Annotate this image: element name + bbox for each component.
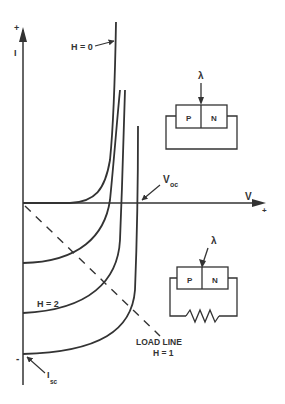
load-line <box>25 206 160 336</box>
h2-label: H = 2 <box>37 299 59 309</box>
y-axis-label: I <box>14 48 17 58</box>
circuit-short: λ P N <box>166 70 237 149</box>
svg-text:V: V <box>163 174 170 185</box>
svg-text:H = 1: H = 1 <box>153 348 174 358</box>
y-axis-plus: + <box>14 23 19 33</box>
load-line-label: LOAD LINE H = 1 <box>136 337 182 358</box>
svg-text:sc: sc <box>50 378 58 385</box>
n-region-top: N <box>211 114 217 123</box>
photodiode-iv-diagram: + I - V + H = 0 H = 2 LOAD LINE H = 1 V … <box>0 0 285 404</box>
light-arrow-icon <box>198 97 204 105</box>
p-region-top: P <box>186 114 192 123</box>
x-axis-plus: + <box>262 206 267 215</box>
svg-text:H = 0: H = 0 <box>71 42 93 52</box>
svg-text:oc: oc <box>170 181 178 188</box>
n-region-bottom: N <box>212 276 218 285</box>
circuit-load: λ P N <box>170 235 237 322</box>
voc-annotation: V oc <box>142 174 178 200</box>
p-region-bottom: P <box>187 276 193 285</box>
isc-annotation: I sc <box>27 357 58 385</box>
curve-h0 <box>23 22 116 203</box>
x-axis-label: V <box>245 191 252 202</box>
light-lambda-top: λ <box>198 70 204 81</box>
light-lambda-bottom: λ <box>211 235 217 246</box>
resistor-icon <box>186 310 219 322</box>
y-axis: + I - <box>14 23 27 385</box>
h0-label: H = 0 <box>71 41 114 52</box>
y-axis-arrow-icon <box>19 27 27 42</box>
y-axis-minus: - <box>16 353 19 364</box>
svg-text:LOAD LINE: LOAD LINE <box>136 337 182 347</box>
